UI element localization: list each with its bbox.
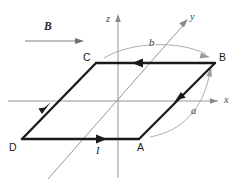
y-axis-label: y <box>190 12 195 23</box>
z-axis-label: z <box>106 14 110 25</box>
side-a-label: a <box>191 106 196 117</box>
y-axis-arrowhead <box>179 19 188 27</box>
physics-diagram-figure: B z y x C B A D b a I <box>0 0 244 184</box>
vertex-label-A: A <box>137 142 144 153</box>
magnetic-field-label: B <box>44 21 52 33</box>
vertex-label-D: D <box>9 142 17 153</box>
x-axis-arrowhead <box>210 98 218 104</box>
dimension-arcs-group <box>104 45 212 137</box>
axes-group <box>8 14 218 179</box>
z-axis-arrowhead <box>115 14 121 22</box>
vertex-label-B: B <box>219 52 226 63</box>
x-axis-label: x <box>224 95 229 106</box>
magnetic-field-arrowhead <box>75 38 84 44</box>
side-b-dimension-arc <box>104 45 206 58</box>
current-label: I <box>96 146 100 157</box>
y-axis-line <box>48 22 186 179</box>
current-arrowhead-top-BC <box>132 59 143 68</box>
current-arrowhead-bottom-DA <box>96 135 107 144</box>
side-b-label: b <box>149 38 154 49</box>
side-a-dimension-arc <box>150 72 210 137</box>
diagram-canvas <box>0 0 244 184</box>
vertex-label-C: C <box>83 52 91 63</box>
magnetic-field-arrow-group <box>25 38 84 44</box>
